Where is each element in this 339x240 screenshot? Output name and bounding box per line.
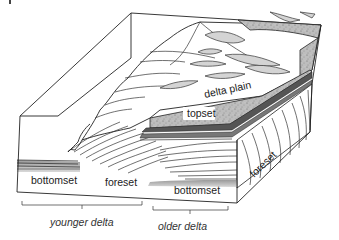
foreset-younger-label: foreset (105, 176, 137, 188)
topset-label: topset (187, 107, 216, 119)
artifact-mark (9, 0, 11, 4)
older-delta-label: older delta (158, 220, 207, 232)
older-delta-bracket (153, 206, 228, 214)
younger-delta-bracket (22, 201, 142, 209)
younger-delta-label: younger delta (49, 216, 114, 228)
bottomset-older-label: bottomset (174, 184, 220, 196)
younger-bottomset-beds (17, 160, 80, 172)
older-front-beds (148, 142, 237, 187)
delta-block-diagram: topset delt (0, 0, 339, 240)
bottomset-younger-label: bottomset (31, 174, 77, 186)
